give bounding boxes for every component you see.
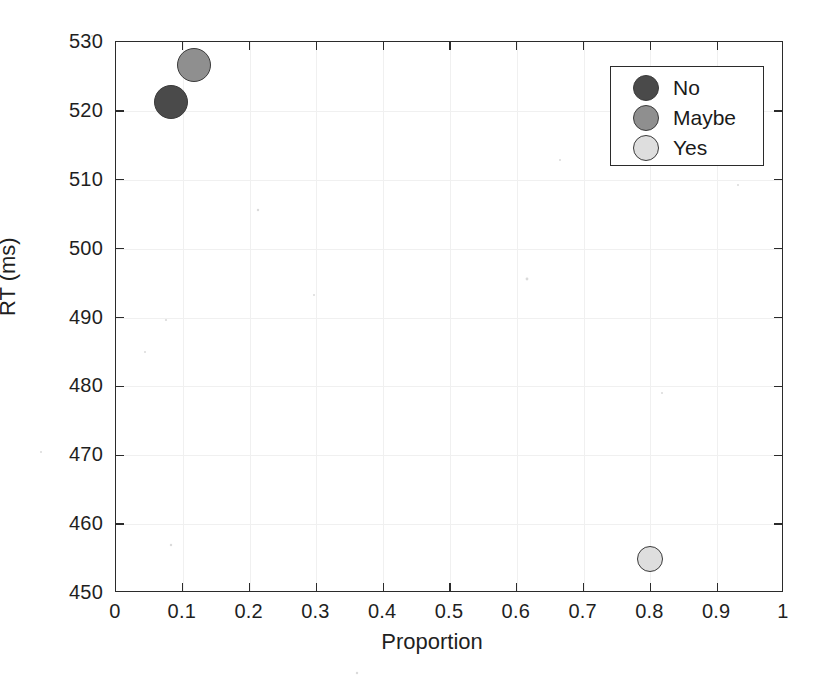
y-tick-label: 510	[0, 167, 103, 190]
x-tick-label: 0.7	[568, 600, 596, 623]
y-tick-label: 450	[0, 581, 103, 604]
x-axis-tick	[316, 583, 317, 591]
y-axis-tick	[774, 179, 782, 180]
y-axis-tick	[116, 386, 124, 387]
y-axis-tick	[116, 179, 124, 180]
gridline-vertical	[450, 42, 451, 591]
x-axis-tick	[516, 583, 517, 591]
legend-item-no[interactable]: No	[611, 73, 763, 103]
x-axis-tick	[717, 583, 718, 591]
y-tick-label: 480	[0, 374, 103, 397]
x-axis-tick	[249, 42, 250, 50]
gridline-vertical	[584, 42, 585, 591]
x-tick-label: 0	[109, 600, 120, 623]
x-axis-tick	[182, 583, 183, 591]
gridline-horizontal	[116, 386, 782, 387]
y-axis-tick	[774, 110, 782, 111]
x-tick-label: 0.5	[435, 600, 463, 623]
gridline-horizontal	[116, 318, 782, 319]
y-tick-label: 460	[0, 512, 103, 535]
x-tick-label: 0.2	[234, 600, 262, 623]
y-tick-label: 470	[0, 443, 103, 466]
x-tick-label: 0.3	[301, 600, 329, 623]
y-axis-tick	[116, 523, 124, 524]
x-axis-tick	[717, 42, 718, 50]
x-axis-title: Proportion	[0, 629, 826, 655]
x-axis-tick	[383, 583, 384, 591]
x-tick-label: 0.4	[368, 600, 396, 623]
y-tick-label: 520	[0, 98, 103, 121]
y-axis-tick	[116, 110, 124, 111]
gridline-vertical	[250, 42, 251, 591]
y-axis-tick	[774, 386, 782, 387]
data-point-yes[interactable]	[637, 546, 663, 572]
x-axis-tick	[449, 583, 450, 591]
x-tick-label: 1	[777, 600, 788, 623]
gridline-vertical	[517, 42, 518, 591]
x-axis-tick	[316, 42, 317, 50]
gridline-horizontal	[116, 180, 782, 181]
legend-label: Yes	[673, 136, 707, 160]
y-axis-tick	[774, 455, 782, 456]
x-tick-label: 0.9	[702, 600, 730, 623]
x-axis-tick	[516, 42, 517, 50]
x-axis-tick	[249, 583, 250, 591]
data-point-no[interactable]	[154, 85, 188, 119]
x-tick-label: 0.1	[168, 600, 196, 623]
x-axis-tick	[583, 583, 584, 591]
y-axis-tick	[116, 317, 124, 318]
x-axis-title-text: Proportion	[381, 629, 483, 655]
x-axis-tick	[383, 42, 384, 50]
x-axis-tick	[650, 583, 651, 591]
legend-item-maybe[interactable]: Maybe	[611, 103, 763, 133]
y-tick-label: 530	[0, 30, 103, 53]
legend-item-yes[interactable]: Yes	[611, 133, 763, 163]
y-axis-tick	[774, 523, 782, 524]
gridline-vertical	[383, 42, 384, 591]
legend-label: No	[673, 76, 700, 100]
scatter-plot-figure: RT (ms) 450460470480490500510520530 00.1…	[0, 0, 826, 681]
legend-label: Maybe	[673, 106, 736, 130]
gridline-vertical	[183, 42, 184, 591]
legend-box[interactable]: NoMaybeYes	[610, 66, 764, 166]
legend-marker-icon	[633, 135, 659, 161]
gridline-horizontal	[116, 524, 782, 525]
x-axis-tick	[182, 42, 183, 50]
y-axis-tick	[116, 248, 124, 249]
data-point-maybe[interactable]	[177, 48, 211, 82]
gridline-horizontal	[116, 249, 782, 250]
y-tick-label: 500	[0, 236, 103, 259]
y-axis-tick	[774, 248, 782, 249]
y-axis-tick	[116, 455, 124, 456]
gridline-horizontal	[116, 455, 782, 456]
gridline-vertical	[316, 42, 317, 591]
x-axis-tick	[449, 42, 450, 50]
x-axis-tick	[583, 42, 584, 50]
x-axis-tick	[650, 42, 651, 50]
legend-marker-icon	[633, 105, 659, 131]
x-tick-label: 0.6	[502, 600, 530, 623]
y-tick-label: 490	[0, 305, 103, 328]
x-tick-label: 0.8	[635, 600, 663, 623]
legend-marker-icon	[633, 75, 659, 101]
y-axis-tick	[774, 317, 782, 318]
